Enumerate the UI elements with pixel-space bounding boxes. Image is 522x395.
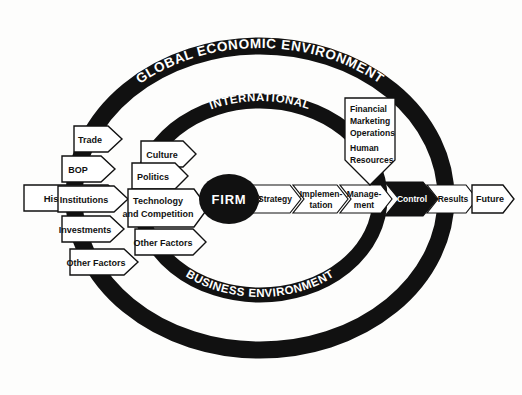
input-arrow-other-factors-inner-label: Other Factors	[133, 238, 192, 248]
input-arrow-technology-competition-label2: and Competition	[123, 209, 194, 219]
framework-diagram: GLOBAL ECONOMIC ENVIRONMENT INTERNATIONA…	[0, 0, 522, 395]
input-arrow-other-factors-inner[interactable]: Other Factors	[133, 229, 206, 255]
functions-box-line-marketing: Marketing	[350, 116, 390, 126]
functions-box-line-resources: Resources	[350, 155, 394, 165]
input-arrow-technology-competition[interactable]: Technology and Competition	[123, 189, 209, 227]
input-arrow-investments[interactable]: Investments	[59, 216, 124, 242]
input-arrow-politics[interactable]: Politics	[132, 163, 188, 189]
input-arrow-trade-label: Trade	[78, 135, 102, 145]
functions-box-line-financial: Financial	[350, 104, 387, 114]
process-step-control-label: Control	[397, 194, 427, 204]
input-arrow-bop-label: BOP	[68, 165, 88, 175]
firm-core-label: FIRM	[212, 192, 247, 207]
process-step-strategy-label: Strategy	[258, 194, 292, 204]
diagram-canvas: GLOBAL ECONOMIC ENVIRONMENT INTERNATIONA…	[0, 0, 522, 395]
input-arrow-other-factors-outer-label: Other Factors	[66, 258, 125, 268]
process-chain: Strategy Implemen- tation Manage- ment C…	[250, 182, 514, 216]
input-arrow-institutions[interactable]: Institutions	[58, 186, 128, 212]
input-arrow-technology-competition-label: Technology	[133, 196, 183, 206]
output-arrow-future-label: Future	[476, 194, 504, 204]
process-step-implementation-label: Implemen-	[300, 189, 343, 199]
input-arrow-culture-label: Culture	[146, 150, 178, 160]
functions-box-line-human: Human	[350, 143, 379, 153]
input-arrow-investments-label: Investments	[59, 225, 112, 235]
process-step-implementation-label2: tation	[309, 200, 332, 210]
input-arrow-institutions-label: Institutions	[60, 195, 109, 205]
process-step-management-label: Manage-	[347, 189, 382, 199]
input-arrow-other-factors-outer[interactable]: Other Factors	[66, 249, 138, 275]
process-step-results-label: Results	[438, 194, 469, 204]
firm-core[interactable]: FIRM	[199, 174, 259, 224]
functions-box-line-operations: Operations	[350, 128, 395, 138]
process-step-management-label2: ment	[354, 200, 374, 210]
input-arrow-politics-label: Politics	[137, 172, 169, 182]
